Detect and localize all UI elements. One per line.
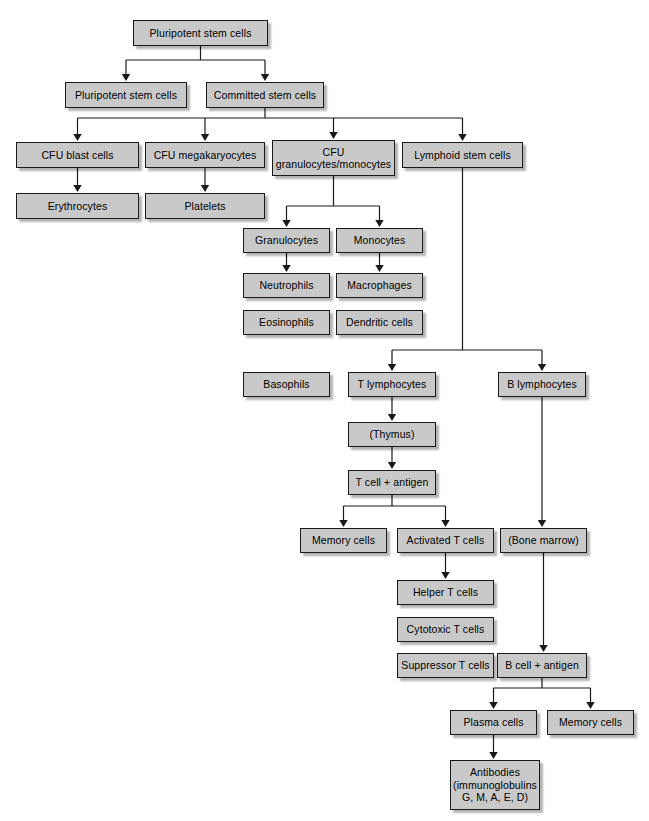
node-bone_marrow: (Bone marrow) [500,528,587,553]
node-t_lymphocytes: T lymphocytes [348,372,436,397]
node-b_lymphocytes: B lymphocytes [498,372,586,397]
node-neutrophils: Neutrophils [243,273,330,298]
node-cfu_megakaryocytes: CFU megakaryocytes [145,142,265,168]
flowchart-canvas: Pluripotent stem cellsPluripotent stem c… [0,0,649,821]
node-pluripotent_left: Pluripotent stem cells [65,82,187,108]
node-thymus: (Thymus) [348,422,436,447]
node-pluripotent_top: Pluripotent stem cells [133,20,268,46]
node-cfu_gran_mono: CFU granulocytes/monocytes [272,140,395,176]
node-granulocytes: Granulocytes [243,228,330,253]
node-suppressor_t_cells: Suppressor T cells [397,653,494,678]
node-erythrocytes: Erythrocytes [16,193,139,219]
node-activated_t_cells: Activated T cells [397,528,494,553]
node-cytotoxic_t_cells: Cytotoxic T cells [397,617,494,642]
node-basophils: Basophils [243,372,330,397]
node-macrophages: Macrophages [336,273,423,298]
node-antibodies: Antibodies (immunoglobulins G, M, A, E, … [450,760,540,810]
node-cfu_blast: CFU blast cells [16,142,139,168]
node-helper_t_cells: Helper T cells [397,580,494,605]
node-memory_cells_b: Memory cells [547,710,634,735]
node-monocytes: Monocytes [336,228,423,253]
flowchart-edges [0,0,649,821]
node-dendritic_cells: Dendritic cells [336,310,423,335]
node-committed: Committed stem cells [206,82,324,108]
node-memory_cells_t: Memory cells [300,528,387,553]
node-b_cell_antigen: B cell + antigen [497,653,587,678]
node-eosinophils: Eosinophils [243,310,330,335]
node-t_cell_antigen: T cell + antigen [348,470,436,495]
node-lymphoid: Lymphoid stem cells [402,142,523,168]
node-plasma_cells: Plasma cells [450,710,537,735]
node-platelets: Platelets [145,193,265,219]
